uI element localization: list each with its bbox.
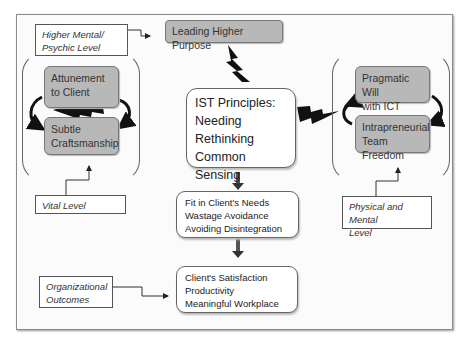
box-line: Intrapreneurial <box>362 120 423 134</box>
outcome-item: Meaningful Workplace <box>185 297 289 310</box>
higher-mental-psychic-label: Higher Mental/ Psychic Level <box>35 24 128 56</box>
principle-item: Needing <box>195 112 287 130</box>
organizational-outcomes-label: Organizational Outcomes <box>39 276 113 308</box>
subtle-craftsmanship-box: Subtle Craftsmanship <box>44 117 119 155</box>
box-line: Pragmatic Will <box>362 71 423 99</box>
physical-mental-level-label: Physical and Mental Level <box>342 196 432 229</box>
label-line: Level <box>349 226 425 239</box>
principle-item: Rethinking <box>195 130 287 148</box>
box-line: to Client <box>51 85 112 99</box>
box-line: Team Freedom <box>362 134 423 162</box>
box-line: Subtle <box>51 122 112 136</box>
intrapreneurial-team-freedom-box: Intrapreneurial Team Freedom <box>355 115 430 153</box>
label-line: Physical and Mental <box>349 200 425 226</box>
outcome-item: Client's Satisfaction <box>185 271 289 284</box>
label-line: Outcomes <box>46 293 106 306</box>
pragmatic-will-box: Pragmatic Will with ICT <box>355 66 430 103</box>
label-line: Organizational <box>46 280 106 293</box>
box-line: with ICT <box>362 99 423 113</box>
label-line: Psychic Level <box>42 41 121 54</box>
label-line: Higher Mental/ <box>42 28 121 41</box>
vital-level-label: Vital Level <box>35 195 126 214</box>
label-line: Vital Level <box>42 199 119 212</box>
attunement-to-client-box: Attunement to Client <box>44 66 119 108</box>
ist-principles-box: IST Principles: Needing Rethinking Commo… <box>186 88 296 168</box>
effect-item: Wastage Avoidance <box>185 209 290 222</box>
box-line: Craftsmanship <box>51 136 112 150</box>
ist-principles-title: IST Principles: <box>195 94 287 112</box>
box-line: Attunement <box>51 71 112 85</box>
leading-higher-purpose-box: Leading Higher Purpose <box>165 20 283 43</box>
organizational-outcomes-box: Client's Satisfaction Productivity Meani… <box>176 266 298 313</box>
principles-effects-box: Fit in Client's Needs Wastage Avoidance … <box>176 191 299 238</box>
effect-item: Fit in Client's Needs <box>185 196 290 209</box>
principle-item: Common Sensing <box>195 148 287 184</box>
effect-item: Avoiding Disintegration <box>185 222 290 235</box>
outcome-item: Productivity <box>185 284 289 297</box>
